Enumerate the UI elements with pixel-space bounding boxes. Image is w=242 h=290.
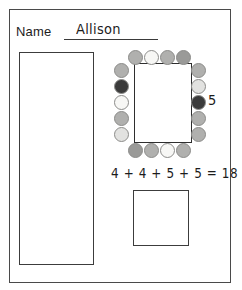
answer-square-box[interactable] [133,190,189,246]
counter-array [110,50,210,168]
counter-left-0[interactable] [114,63,129,78]
array-inner-rectangle [134,63,192,143]
name-field-row: Name Allison [16,22,176,42]
counter-bottom-1[interactable] [144,143,159,158]
counter-right-2[interactable] [191,95,206,110]
side-count-label: 5 [208,92,216,109]
counter-top-0[interactable] [128,50,143,65]
counter-right-0[interactable] [191,63,206,78]
counter-left-3[interactable] [114,111,129,126]
counter-bottom-2[interactable] [160,143,175,158]
counter-top-2[interactable] [160,50,175,65]
counter-bottom-0[interactable] [128,143,143,158]
counter-left-4[interactable] [114,127,129,142]
worksheet-page: Name Allison 5 4 + 4 + 5 + 5 = 18 [0,0,242,290]
counter-bottom-3[interactable] [176,143,191,158]
left-work-box[interactable] [19,52,94,265]
name-input-value[interactable]: Allison [76,21,121,37]
counter-right-4[interactable] [191,127,206,142]
name-label: Name [16,24,51,39]
name-underline [64,39,158,40]
equation-text: 4 + 4 + 5 + 5 = 18 [111,166,238,182]
counter-left-1[interactable] [114,79,129,94]
counter-top-3[interactable] [176,50,191,65]
counter-left-2[interactable] [114,95,129,110]
counter-right-1[interactable] [191,79,206,94]
counter-top-1[interactable] [144,50,159,65]
counter-right-3[interactable] [191,111,206,126]
